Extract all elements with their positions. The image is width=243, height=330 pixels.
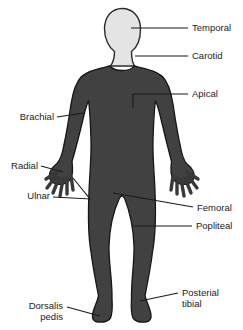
label-apical: Apical [192,88,218,99]
label-carotid: Carotid [192,50,223,61]
label-radial: Radial [0,160,38,171]
label-temporal: Temporal [192,22,231,33]
label-posterial-tibial: Posterial tibial [182,287,219,309]
pulse-points-diagram: Temporal Carotid Apical Femoral Poplitea… [0,0,243,330]
label-popliteal: Popliteal [196,220,232,231]
label-posterial-tibial-line2: tibial [182,298,219,309]
label-dorsalis-pedis-line1: Dorsalis [0,300,63,311]
label-brachial: Brachial [0,111,54,122]
label-dorsalis-pedis: Dorsalis pedis [0,300,63,322]
head-shape [105,9,141,67]
label-posterial-tibial-line1: Posterial [182,287,219,298]
label-femoral: Femoral [197,202,232,213]
label-ulnar: Ulnar [0,190,50,201]
label-dorsalis-pedis-line2: pedis [0,311,63,322]
